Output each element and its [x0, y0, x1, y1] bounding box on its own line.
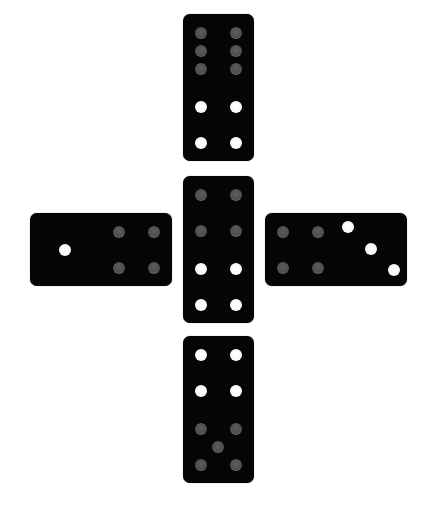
- pip-icon: [230, 263, 242, 275]
- pip-icon: [230, 423, 242, 435]
- pip-icon: [195, 299, 207, 311]
- domino-bottom[interactable]: [183, 336, 254, 483]
- pip-icon: [230, 459, 242, 471]
- pip-icon: [212, 441, 224, 453]
- pip-icon: [230, 385, 242, 397]
- domino-half-first: [183, 336, 254, 409]
- pip-icon: [195, 101, 207, 113]
- domino-half-first: [265, 213, 336, 286]
- pip-icon: [388, 264, 400, 276]
- pip-icon: [195, 137, 207, 149]
- domino-center[interactable]: [183, 176, 254, 323]
- domino-half-first: [183, 14, 254, 87]
- pip-icon: [195, 63, 207, 75]
- domino-half-second: [336, 213, 407, 286]
- pip-icon: [365, 243, 377, 255]
- pip-icon: [312, 262, 324, 274]
- pip-icon: [148, 262, 160, 274]
- domino-half-second: [183, 250, 254, 323]
- pip-icon: [230, 27, 242, 39]
- pip-icon: [230, 299, 242, 311]
- pip-icon: [230, 225, 242, 237]
- pip-icon: [230, 101, 242, 113]
- pip-icon: [195, 263, 207, 275]
- pip-icon: [230, 63, 242, 75]
- domino-half-first: [30, 213, 101, 286]
- pip-icon: [230, 349, 242, 361]
- domino-half-second: [183, 410, 254, 483]
- pip-icon: [230, 137, 242, 149]
- pip-icon: [230, 189, 242, 201]
- pip-icon: [312, 226, 324, 238]
- pip-icon: [342, 221, 354, 233]
- pip-icon: [195, 189, 207, 201]
- pip-icon: [59, 244, 71, 256]
- pip-icon: [195, 385, 207, 397]
- pip-icon: [195, 225, 207, 237]
- pip-icon: [195, 27, 207, 39]
- pip-icon: [195, 45, 207, 57]
- domino-right[interactable]: [265, 213, 407, 286]
- pip-icon: [195, 423, 207, 435]
- domino-board: [0, 0, 421, 508]
- pip-icon: [230, 45, 242, 57]
- pip-icon: [277, 226, 289, 238]
- pip-icon: [148, 226, 160, 238]
- pip-icon: [195, 459, 207, 471]
- domino-half-first: [183, 176, 254, 249]
- pip-icon: [113, 226, 125, 238]
- pip-icon: [195, 349, 207, 361]
- domino-left[interactable]: [30, 213, 172, 286]
- domino-half-second: [183, 88, 254, 161]
- pip-icon: [113, 262, 125, 274]
- domino-top[interactable]: [183, 14, 254, 161]
- pip-icon: [277, 262, 289, 274]
- domino-half-second: [101, 213, 172, 286]
